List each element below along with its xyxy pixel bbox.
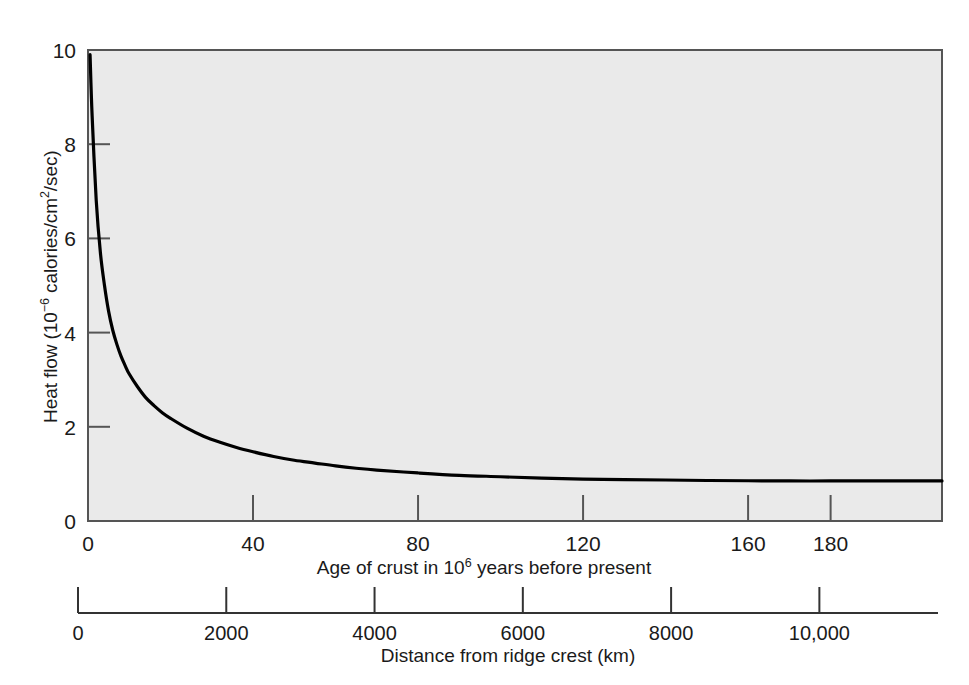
y-tick-label: 8 <box>64 134 76 155</box>
plot-background <box>88 50 942 521</box>
x-tick-label: 0 <box>82 533 94 554</box>
x-tick-label: 40 <box>241 533 264 554</box>
distance-axis <box>78 587 938 613</box>
distance-tick-marks <box>78 587 819 613</box>
x-tick-label: 180 <box>813 533 848 554</box>
distance-axis-caption: Distance from ridge crest (km) <box>381 645 635 667</box>
x-axis-caption: Age of crust in 106 years before present <box>317 556 651 579</box>
distance-tick-label: 4000 <box>352 623 397 643</box>
distance-tick-label: 8000 <box>649 623 694 643</box>
y-axis-title: Heat flow (10−6 calories/cm2/sec) <box>38 77 61 497</box>
x-tick-label: 160 <box>731 533 766 554</box>
distance-tick-label: 10,000 <box>789 623 850 643</box>
plot-canvas <box>0 0 969 685</box>
y-tick-label: 10 <box>53 40 76 61</box>
x-tick-label: 80 <box>406 533 429 554</box>
y-tick-label: 0 <box>64 511 76 532</box>
y-tick-label: 2 <box>64 416 76 437</box>
x-tick-label: 120 <box>566 533 601 554</box>
distance-tick-label: 6000 <box>501 623 546 643</box>
distance-tick-label: 2000 <box>204 623 249 643</box>
y-tick-label: 4 <box>64 322 76 343</box>
distance-tick-label: 0 <box>72 623 83 643</box>
y-tick-label: 6 <box>64 228 76 249</box>
heat-flow-figure: Heat flow (10−6 calories/cm2/sec) 024681… <box>0 0 969 685</box>
